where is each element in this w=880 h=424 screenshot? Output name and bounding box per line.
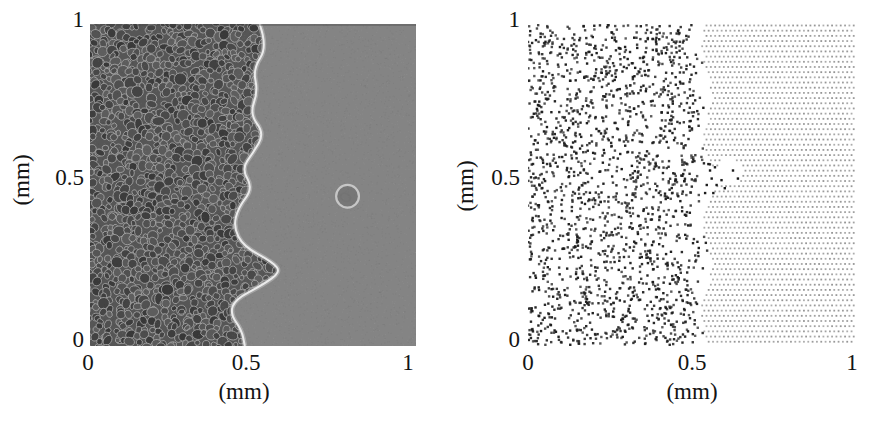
left-xtick-1: 1 [392, 351, 424, 375]
left-xlabel: (mm) [204, 380, 284, 404]
left-xtick-0: 0 [72, 351, 104, 375]
right-ytick-0: 0 [492, 328, 520, 352]
right-xtick-0_5: 0.5 [671, 351, 713, 375]
right-xtick-0: 0 [512, 351, 544, 375]
left-ylabel: (mm) [10, 140, 34, 220]
right-ytick-0_5: 0.5 [477, 166, 520, 190]
micrograph-image [90, 24, 416, 346]
left-ytick-0: 0 [56, 328, 84, 352]
right-xlabel: (mm) [652, 380, 732, 404]
scatter-plot [528, 24, 856, 346]
left-ytick-0_5: 0.5 [41, 166, 84, 190]
right-ytick-1: 1 [492, 8, 520, 32]
left-xtick-0_5: 0.5 [225, 351, 267, 375]
right-xtick-1: 1 [836, 351, 868, 375]
right-ylabel: (mm) [454, 146, 478, 226]
figure: 1 0.5 0 (mm) 0 0.5 1 (mm) 1 0.5 0 (mm) 0… [0, 0, 880, 424]
left-ytick-1: 1 [56, 8, 84, 32]
